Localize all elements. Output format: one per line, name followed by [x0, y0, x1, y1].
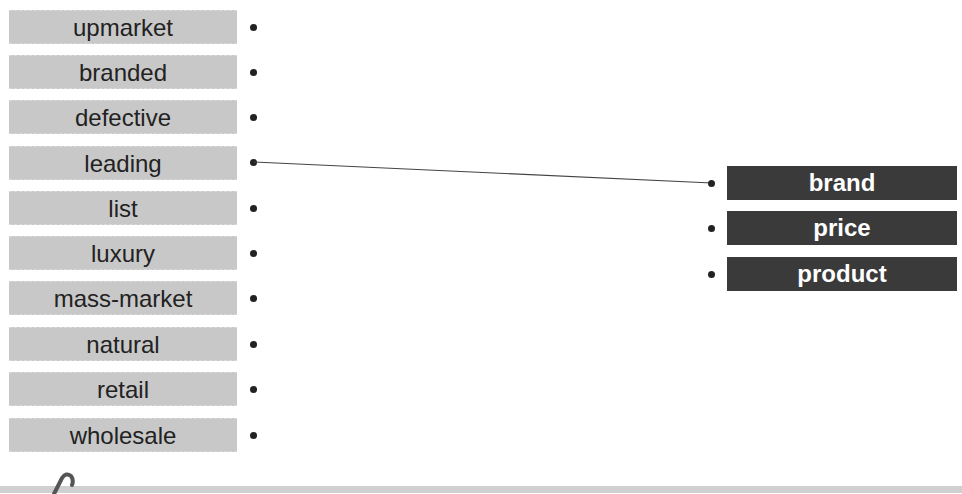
left-dot-wholesale[interactable]	[250, 432, 257, 439]
left-dot-upmarket[interactable]	[250, 24, 257, 31]
left-word-upmarket[interactable]: upmarket	[9, 10, 237, 44]
left-word-luxury[interactable]: luxury	[9, 236, 237, 270]
left-dot-luxury[interactable]	[250, 250, 257, 257]
left-word-branded[interactable]: branded	[9, 55, 237, 89]
right-dot-brand[interactable]	[708, 180, 715, 187]
left-dot-list[interactable]	[250, 205, 257, 212]
left-dot-leading[interactable]	[250, 159, 257, 166]
left-dot-natural[interactable]	[250, 341, 257, 348]
right-dot-price[interactable]	[708, 225, 715, 232]
right-word-product[interactable]: product	[727, 257, 957, 291]
left-word-mass-market[interactable]: mass-market	[9, 281, 237, 315]
left-word-wholesale[interactable]: wholesale	[9, 418, 237, 452]
left-word-retail[interactable]: retail	[9, 372, 237, 406]
left-dot-defective[interactable]	[250, 114, 257, 121]
left-dot-retail[interactable]	[250, 386, 257, 393]
paperclip-icon	[48, 470, 78, 494]
footer-bar	[0, 486, 962, 493]
right-word-price[interactable]: price	[727, 211, 957, 245]
right-dot-product[interactable]	[708, 271, 715, 278]
left-word-defective[interactable]: defective	[9, 100, 237, 134]
left-word-leading[interactable]: leading	[9, 146, 237, 180]
right-word-brand[interactable]: brand	[727, 166, 957, 200]
left-dot-branded[interactable]	[250, 69, 257, 76]
left-word-list[interactable]: list	[9, 191, 237, 225]
left-word-natural[interactable]: natural	[9, 327, 237, 361]
left-dot-mass-market[interactable]	[250, 295, 257, 302]
